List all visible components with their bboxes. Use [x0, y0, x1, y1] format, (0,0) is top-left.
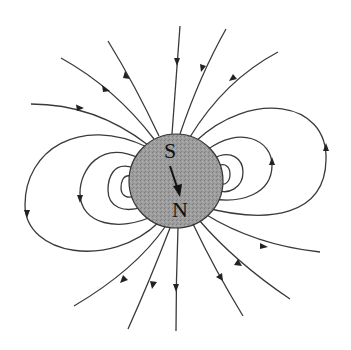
arrow-icon — [229, 74, 237, 81]
outgoing-field-lines — [74, 214, 320, 331]
arrow-icon — [120, 275, 128, 283]
north-pole-label: N — [172, 199, 188, 221]
field-line-top-6 — [190, 52, 278, 137]
arrow-icon — [24, 210, 30, 218]
field-line-bottom-5 — [199, 220, 290, 299]
arrow-icon — [173, 284, 179, 292]
arrow-icon — [102, 85, 110, 92]
arrow-icon — [77, 195, 83, 203]
field-lines-canvas — [0, 0, 351, 350]
south-pole-label: S — [164, 140, 176, 162]
field-line-bottom-2 — [128, 228, 170, 329]
arrow-icon — [260, 243, 268, 249]
field-line-top-3 — [108, 41, 159, 136]
arrowheads-outgoing — [120, 243, 268, 292]
field-line-bottom-1 — [74, 227, 165, 306]
arrow-icon — [174, 58, 180, 66]
incoming-field-lines — [31, 26, 278, 145]
arrow-icon — [150, 281, 157, 289]
field-line-top-4 — [172, 26, 180, 134]
field-line-bottom-3 — [176, 228, 178, 331]
arrow-icon — [269, 157, 275, 165]
field-line-top-1 — [31, 104, 148, 145]
field-line-bottom-4 — [193, 224, 243, 316]
magnetic-field-diagram: S N — [0, 0, 351, 350]
